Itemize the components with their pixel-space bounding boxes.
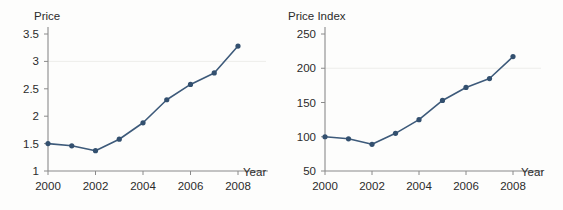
price-index-chart-tick-labels: 5010015020025020002002200420062008 (297, 28, 526, 192)
y-tick-label: 100 (297, 131, 316, 143)
y-tick-label: 3 (33, 55, 39, 67)
data-point-marker (510, 54, 515, 59)
data-point-marker (235, 43, 240, 48)
two-panel-line-chart-figure: 11.522.533.520002002200420062008 Price Y… (0, 0, 563, 210)
y-tick-label: 1.5 (23, 138, 39, 150)
data-point-marker (369, 142, 374, 147)
data-point-marker (416, 117, 421, 122)
x-tick-label: 2006 (178, 180, 204, 192)
x-tick-label: 2008 (500, 180, 526, 192)
x-tick-label: 2000 (35, 180, 61, 192)
x-tick-label: 2002 (359, 180, 385, 192)
x-axis-title: Year (243, 166, 266, 178)
data-point-marker (117, 137, 122, 142)
price-index-chart-axes (325, 27, 543, 171)
y-axis-title: Price Index (288, 10, 346, 22)
y-tick-label: 50 (303, 165, 316, 177)
data-point-marker (164, 97, 169, 102)
data-point-marker (188, 82, 193, 87)
x-tick-label: 2000 (312, 180, 338, 192)
y-tick-label: 2 (33, 110, 39, 122)
price-chart-svg: 11.522.533.520002002200420062008 Price Y… (0, 0, 281, 210)
x-tick-label: 2008 (225, 180, 251, 192)
x-tick-label: 2002 (83, 180, 109, 192)
data-point-marker (69, 143, 74, 148)
data-point-marker (322, 134, 327, 139)
price-series-markers (45, 43, 240, 153)
price-index-series-line (325, 57, 513, 145)
data-point-marker (140, 120, 145, 125)
y-tick-label: 150 (297, 97, 316, 109)
x-tick-label: 2006 (453, 180, 479, 192)
data-point-marker (93, 148, 98, 153)
y-tick-label: 250 (297, 28, 316, 40)
price-index-chart-panel: 5010015020025020002002200420062008 Price… (281, 0, 562, 210)
price-index-chart-ticks (321, 34, 513, 175)
x-tick-label: 2004 (406, 180, 432, 192)
y-axis-title: Price (34, 10, 60, 22)
data-point-marker (346, 136, 351, 141)
data-point-marker (212, 70, 217, 75)
y-tick-label: 3.5 (23, 28, 39, 40)
x-tick-label: 2004 (130, 180, 156, 192)
y-tick-label: 1 (33, 165, 39, 177)
data-point-marker (440, 98, 445, 103)
data-point-marker (487, 76, 492, 81)
price-chart-panel: 11.522.533.520002002200420062008 Price Y… (0, 0, 281, 210)
data-point-marker (393, 131, 398, 136)
price-index-chart-svg: 5010015020025020002002200420062008 Price… (281, 0, 563, 210)
price-chart-tick-labels: 11.522.533.520002002200420062008 (23, 28, 251, 192)
data-point-marker (463, 85, 468, 90)
y-tick-label: 2.5 (23, 83, 39, 95)
y-tick-label: 200 (297, 62, 316, 74)
x-axis-title: Year (521, 166, 544, 178)
price-chart-ticks (44, 34, 238, 175)
data-point-marker (45, 141, 50, 146)
